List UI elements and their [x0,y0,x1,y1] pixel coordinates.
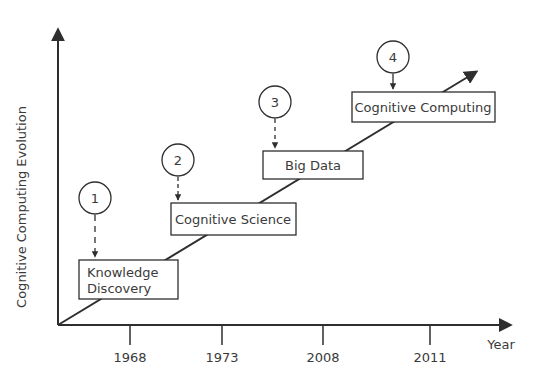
x-axis-label: Year [486,337,515,352]
tick-label-1968: 1968 [113,350,146,365]
stage-label-2: Cognitive Science [175,212,291,227]
stage-label-4: Cognitive Computing [354,100,491,115]
evolution-diagram: 1968 1973 2008 2011 Year Cognitive Compu… [0,0,541,389]
stage-label-1-line2: Discovery [87,281,152,296]
stage-label-1-line1: Knowledge [87,265,158,280]
stage-number-3: 3 [271,95,279,110]
tick-label-2008: 2008 [306,350,339,365]
stage-number-2: 2 [174,153,182,168]
stage-label-3: Big Data [285,158,341,173]
tick-label-2011: 2011 [413,350,446,365]
tick-label-1973: 1973 [205,350,238,365]
y-axis-label: Cognitive Computing Evolution [14,106,29,308]
stage-number-4: 4 [389,50,397,65]
x-ticks [130,325,430,345]
stage-number-1: 1 [91,191,99,206]
